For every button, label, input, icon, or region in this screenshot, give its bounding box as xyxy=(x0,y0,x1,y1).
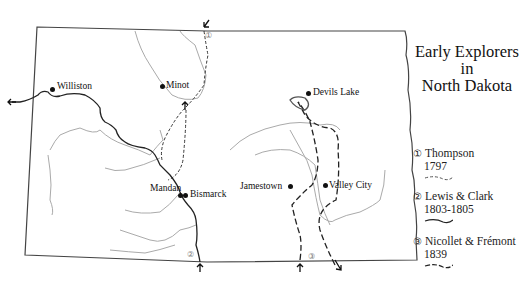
city-dot-devils-lake xyxy=(306,91,311,96)
map-title: Early Explorers in North Dakota xyxy=(408,43,521,94)
city-devils-lake: Devils Lake xyxy=(313,87,359,97)
legend-lewis-clark: ②Lewis & Clark 1803-1805 xyxy=(413,190,493,227)
route-marker-nicollet-fremont: ③ xyxy=(308,252,315,261)
route-marker-thompson: ① xyxy=(205,31,212,40)
state-border xyxy=(25,27,417,262)
nicollet-fremont-route xyxy=(292,102,318,260)
city-dot-minot xyxy=(160,84,165,89)
city-mandan: Mandan xyxy=(150,183,181,193)
short-dash-line-icon xyxy=(413,174,453,182)
city-dot-jamestown xyxy=(288,184,293,189)
city-dot-bismarck xyxy=(183,193,188,198)
city-dot-williston xyxy=(50,87,55,92)
city-jamestown: Jamestown xyxy=(240,181,282,191)
city-minot: Minot xyxy=(166,80,189,90)
city-williston: Williston xyxy=(57,81,92,91)
solid-line-icon xyxy=(413,217,453,225)
city-bismarck: Bismarck xyxy=(190,189,226,199)
legend-nicollet-fremont: ③Nicollet & Frémont 1839 xyxy=(413,235,516,272)
route-marker-lewis-clark: ② xyxy=(187,250,194,259)
city-valley-city: Valley City xyxy=(329,180,372,190)
long-dash-line-icon xyxy=(413,262,453,270)
city-dot-valley-city xyxy=(323,183,328,188)
legend-thompson: ①Thompson 1797 xyxy=(413,147,474,184)
